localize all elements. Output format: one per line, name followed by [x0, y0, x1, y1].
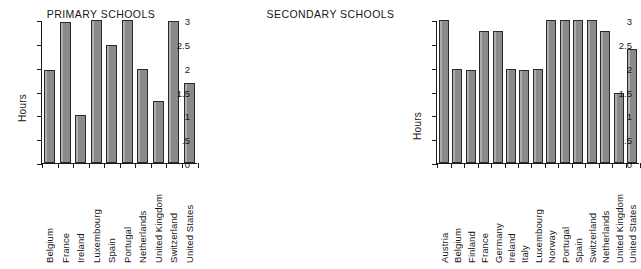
x-axis-tick-label: Finland — [466, 171, 476, 263]
x-axis-tick-label: France — [479, 171, 489, 263]
x-axis-tick — [558, 163, 559, 168]
bar — [466, 70, 476, 163]
bar — [439, 20, 449, 163]
x-axis-tick — [182, 163, 183, 168]
x-axis-tick-label: United Kingdom — [153, 171, 164, 263]
bar — [60, 22, 71, 163]
bar — [493, 31, 503, 163]
y-axis-tick — [37, 69, 42, 70]
y-axis-label-secondary: Hours — [412, 112, 423, 140]
x-axis-tick — [437, 163, 438, 168]
x-axis-tick — [73, 163, 74, 168]
y-axis-tick-label: 1 — [185, 111, 190, 122]
x-axis-tick — [585, 163, 586, 168]
x-axis-tick-label: United States — [184, 171, 195, 263]
x-axis-tick-label: France — [60, 171, 71, 263]
plot-area-primary: BelgiumFranceIrelandLuxembourgSpainPortu… — [41, 21, 197, 164]
x-axis-tick — [478, 163, 479, 168]
chart-panel-secondary-schools: SECONDARY SCHOOLS Hours AustriaBelgiumFi… — [200, 0, 459, 269]
y-axis-tick-label: 0 — [185, 159, 190, 170]
y-axis-tick-label: 2 — [185, 63, 190, 74]
x-axis-tick-label: Switzerland — [168, 171, 179, 263]
x-axis-tick — [166, 163, 167, 168]
y-axis-tick-label: 2 — [627, 63, 632, 74]
y-axis-tick-label: 1.5 — [619, 87, 632, 98]
y-axis-tick-label: 3 — [185, 16, 190, 27]
x-axis-tick — [104, 163, 105, 168]
x-axis-tick-label: Austria — [439, 171, 449, 263]
y-axis-tick — [432, 45, 437, 46]
y-axis-tick — [37, 93, 42, 94]
x-axis-tick — [198, 163, 199, 168]
bar — [546, 20, 556, 163]
bar — [614, 93, 624, 163]
bar — [533, 69, 543, 163]
bar-series-primary — [42, 21, 197, 163]
x-axis-tick — [135, 163, 136, 168]
x-axis-tick-label: Portugal — [560, 171, 570, 263]
x-axis-tick — [531, 163, 532, 168]
x-axis-tick-label: Belgium — [452, 171, 462, 263]
bar — [573, 20, 583, 163]
x-axis-tick-label: Spain — [573, 171, 583, 263]
y-axis-tick — [432, 21, 437, 22]
x-axis-tick — [89, 163, 90, 168]
y-axis-tick — [432, 116, 437, 117]
bar — [75, 115, 86, 163]
x-axis-tick-label: Ireland — [75, 171, 86, 263]
bar — [153, 101, 164, 163]
y-axis-tick — [37, 116, 42, 117]
x-axis-tick-label: Portugal — [122, 171, 133, 263]
x-axis-tick — [518, 163, 519, 168]
x-axis-tick — [451, 163, 452, 168]
x-axis-tick — [626, 163, 627, 168]
bar — [137, 69, 148, 163]
y-axis-tick-label: .5 — [182, 135, 190, 146]
x-axis-tick-label: Luxembourg — [91, 171, 102, 263]
y-axis-tick-label: 1 — [627, 111, 632, 122]
bar — [560, 20, 570, 163]
chart-panel-primary-schools: PRIMARY SCHOOLS Hours BelgiumFranceIrela… — [0, 0, 215, 269]
chart-title-primary: PRIMARY SCHOOLS — [6, 8, 196, 20]
y-axis-tick-label: 2.5 — [619, 39, 632, 50]
x-axis-tick-label: Italy — [519, 171, 529, 263]
bar — [519, 70, 529, 163]
y-axis-tick — [37, 45, 42, 46]
x-axis-tick — [545, 163, 546, 168]
x-axis-labels-primary: BelgiumFranceIrelandLuxembourgSpainPortu… — [42, 163, 197, 263]
x-axis-tick-label: Ireland — [506, 171, 516, 263]
x-axis-tick-label: Netherlands — [137, 171, 148, 263]
x-axis-tick — [151, 163, 152, 168]
x-axis-tick — [58, 163, 59, 168]
y-axis-tick-label: .5 — [624, 135, 632, 146]
bar — [452, 69, 462, 163]
x-axis-tick — [491, 163, 492, 168]
x-axis-tick — [42, 163, 43, 168]
bar — [106, 45, 117, 163]
bar — [479, 31, 489, 163]
y-axis-tick — [37, 140, 42, 141]
plot-area-secondary: AustriaBelgiumFinlandFranceGermanyIrelan… — [436, 21, 639, 164]
x-axis-tick-label: Switzerland — [587, 171, 597, 263]
bar — [506, 69, 516, 163]
x-axis-tick — [599, 163, 600, 168]
x-axis-tick-label: Luxembourg — [533, 171, 543, 263]
bar — [91, 20, 102, 163]
chart-title-secondary: SECONDARY SCHOOLS — [218, 8, 443, 20]
x-axis-tick-label: United Kingdom — [614, 171, 624, 263]
y-axis-tick-label: 0 — [627, 159, 632, 170]
x-axis-tick-label: United States — [627, 171, 637, 263]
bar — [44, 70, 55, 163]
x-axis-tick-label: Belgium — [44, 171, 55, 263]
y-axis-tick-label: 1.5 — [177, 87, 190, 98]
y-axis-tick-label: 2.5 — [177, 39, 190, 50]
x-axis-tick — [612, 163, 613, 168]
x-axis-tick-label: Netherlands — [600, 171, 610, 263]
bar — [122, 20, 133, 163]
x-axis-tick — [572, 163, 573, 168]
y-axis-tick — [432, 69, 437, 70]
x-axis-tick — [505, 163, 506, 168]
bar-series-secondary — [437, 21, 639, 163]
y-axis-tick — [37, 21, 42, 22]
